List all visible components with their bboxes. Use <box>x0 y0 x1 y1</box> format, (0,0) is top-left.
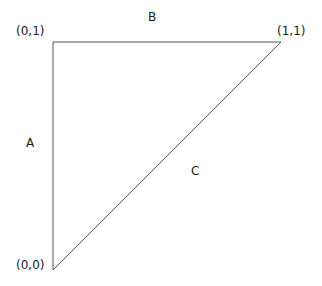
side-label-a: A <box>26 136 34 150</box>
side-c-line <box>53 42 281 270</box>
vertex-label-top-left: (0,1) <box>16 24 44 38</box>
vertex-label-top-right: (1,1) <box>277 24 305 38</box>
side-label-c: C <box>191 164 199 178</box>
triangle-diagram <box>0 0 322 286</box>
side-label-b: B <box>148 10 156 24</box>
vertex-label-origin: (0,0) <box>16 258 44 272</box>
